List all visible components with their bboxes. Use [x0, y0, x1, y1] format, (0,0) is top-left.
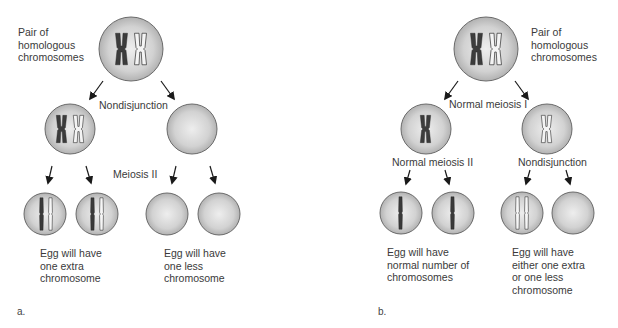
panel-a-meiosis1-right-cell [167, 104, 217, 154]
panel-b-nondisjunction-label: Nondisjunction [518, 156, 587, 169]
arrow-icon [566, 170, 570, 184]
panel-a-egg-2 [76, 193, 118, 235]
arrow-icon [161, 81, 174, 99]
panel-b-letter: b. [378, 306, 386, 317]
arrow-icon [48, 166, 52, 183]
figure-canvas: Pair of homologous chromosomes Nondisjun… [0, 0, 618, 328]
panel-b-egg-3 [501, 192, 543, 234]
panel-b-outcome-right: Egg will have either one extra or one le… [512, 246, 585, 296]
panel-a-meiosis2-label: Meiosis II [113, 168, 157, 181]
panel-b-meiosis1-left-cell [401, 104, 451, 154]
panel-b-normal-meiosis1-label: Normal meiosis I [449, 98, 527, 111]
arrow-icon [210, 166, 215, 183]
panel-a-letter: a. [17, 306, 25, 317]
panel-a-outcome-left: Egg will have one extra chromosome [40, 247, 102, 285]
panel-b-outcome-left: Egg will have normal number of chromosom… [387, 246, 469, 284]
panel-a-nondisjunction-label: Nondisjunction [99, 99, 168, 112]
panel-a-egg-4 [198, 193, 240, 235]
arrow-icon [515, 81, 528, 99]
panel-b-normal-meiosis2-label: Normal meiosis II [392, 156, 473, 169]
arrow-icon [526, 170, 530, 184]
arrow-icon [406, 170, 410, 184]
panel-b-egg-4 [552, 192, 594, 234]
panel-a-parent-label: Pair of homologous chromosomes [18, 26, 84, 64]
panel-a-parent-cell [99, 17, 163, 81]
panel-b-meiosis1-right-cell [522, 104, 572, 154]
arrow-icon [86, 166, 91, 183]
panel-a-meiosis1-left-cell [45, 104, 95, 154]
arrow-icon [172, 166, 176, 183]
panel-b-egg-2 [432, 192, 474, 234]
panel-a-outcome-right: Egg will have one less chromosome [164, 247, 226, 285]
arrow-icon [90, 81, 103, 99]
arrow-icon [445, 170, 449, 184]
panel-b-egg-1 [380, 192, 422, 234]
panel-b-parent-label: Pair of homologous chromosomes [531, 26, 597, 64]
panel-b-parent-cell [454, 17, 518, 81]
panel-a-egg-1 [24, 193, 66, 235]
panel-a-egg-3 [146, 193, 188, 235]
arrow-icon [445, 81, 458, 99]
